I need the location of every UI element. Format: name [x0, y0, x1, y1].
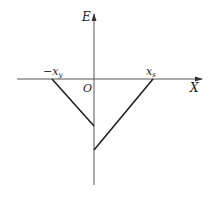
right-line-segment [94, 79, 153, 150]
x-axis-label: X [189, 81, 199, 95]
left-intercept-label: −xy [43, 65, 63, 79]
energy-diagram: E X O −xy xs [0, 0, 212, 200]
origin-label: O [83, 82, 92, 95]
y-axis-label: E [81, 10, 91, 24]
right-intercept-label: xs [146, 65, 156, 79]
